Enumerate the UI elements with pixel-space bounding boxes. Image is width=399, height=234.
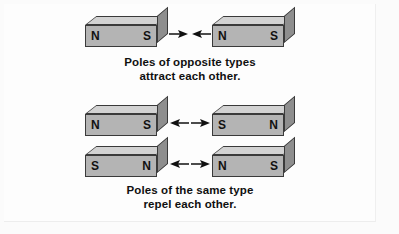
- arrow-gap-attract: [168, 16, 212, 52]
- magnet-top-face: [212, 105, 295, 114]
- magnet-top-face: [212, 16, 295, 25]
- caption-line-1: Poles of the same type: [0, 184, 380, 198]
- pole-label-left: N: [91, 30, 100, 42]
- pole-label-left: N: [218, 30, 227, 42]
- pole-label-left: S: [218, 119, 226, 131]
- pole-label-right: N: [142, 160, 151, 172]
- magnet-pair-repel-1: N S S N: [0, 103, 380, 143]
- pole-label-left: N: [218, 160, 227, 172]
- pole-label-left: N: [91, 119, 100, 131]
- caption-attract: Poles of opposite types attract each oth…: [0, 56, 380, 83]
- magnet-front-face: N S: [212, 25, 284, 47]
- arrow-left-icon: [169, 118, 189, 129]
- caption-line-2: repel each other.: [0, 198, 380, 212]
- arrow-right-icon: [191, 118, 211, 129]
- magnet-front-face: N S: [212, 155, 284, 177]
- caption-line-1: Poles of opposite types: [0, 56, 380, 70]
- magnet-side-face: [284, 7, 295, 43]
- magnet-front-face: S N: [85, 155, 157, 177]
- magnetism-figure: N S N S: [0, 0, 399, 234]
- magnet-repel1-left: N S: [85, 105, 168, 141]
- magnet-side-face: [157, 7, 168, 43]
- magnet-attract-right: N S: [212, 16, 295, 52]
- figure-content: N S N S: [0, 0, 380, 226]
- magnet-repel2-right: N S: [212, 146, 295, 182]
- magnet-repel2-left: S N: [85, 146, 168, 182]
- magnet-front-face: N S: [85, 114, 157, 136]
- caption-repel: Poles of the same type repel each other.: [0, 184, 380, 211]
- magnet-side-face: [157, 96, 168, 132]
- pole-label-left: S: [91, 160, 99, 172]
- magnet-front-face: S N: [212, 114, 284, 136]
- magnet-top-face: [85, 105, 168, 114]
- magnet-top-face: [85, 16, 168, 25]
- pole-label-right: S: [270, 160, 278, 172]
- caption-line-2: attract each other.: [0, 70, 380, 84]
- arrow-gap-repel-1: [168, 105, 212, 141]
- arrow-left-icon: [191, 29, 211, 40]
- magnet-repel1-right: S N: [212, 105, 295, 141]
- magnet-top-face: [85, 146, 168, 155]
- pole-label-right: S: [143, 119, 151, 131]
- magnet-front-face: N S: [85, 25, 157, 47]
- arrow-gap-repel-2: [168, 146, 212, 182]
- pole-label-right: S: [143, 30, 151, 42]
- magnet-top-face: [212, 146, 295, 155]
- magnet-side-face: [284, 96, 295, 132]
- arrow-left-icon: [169, 159, 189, 170]
- arrow-right-icon: [169, 29, 189, 40]
- arrow-right-icon: [191, 159, 211, 170]
- magnet-pair-repel-2: S N N S: [0, 144, 380, 184]
- magnet-attract-left: N S: [85, 16, 168, 52]
- magnet-pair-attract: N S N S: [0, 14, 380, 54]
- pole-label-right: N: [269, 119, 278, 131]
- pole-label-right: S: [270, 30, 278, 42]
